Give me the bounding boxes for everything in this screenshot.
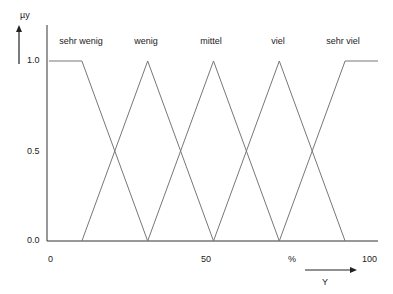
set-label-sehr-wenig: sehr wenig: [59, 36, 103, 46]
set-label-viel: viel: [271, 36, 285, 46]
membership-viel: [214, 61, 346, 241]
x-tick-50: 50: [201, 254, 211, 264]
y-tick-0: 0.0: [27, 235, 40, 245]
y-tick-0-5: 0.5: [27, 146, 40, 156]
y-tick-1: 1.0: [27, 55, 40, 65]
set-label-sehr-viel: sehr viel: [326, 36, 360, 46]
x-tick-100: 100: [362, 254, 377, 264]
x-axis-label: Y: [322, 277, 328, 287]
x-arrow-head-icon: [350, 267, 357, 273]
membership-sehr-viel: [279, 61, 378, 241]
y-arrow-head-icon: [16, 25, 22, 32]
x-tick-0: 0: [48, 254, 53, 264]
membership-sehr-wenig: [49, 61, 148, 241]
membership-mittel: [148, 61, 280, 241]
membership-wenig: [82, 61, 214, 241]
set-label-wenig: wenig: [134, 36, 158, 46]
y-axis-label: µy: [20, 10, 30, 20]
x-unit: %: [288, 254, 296, 264]
set-label-mittel: mittel: [200, 36, 222, 46]
